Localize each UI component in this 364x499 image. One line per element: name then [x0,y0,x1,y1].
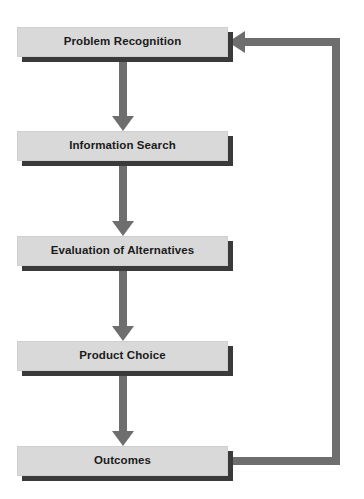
node-information-search[interactable]: Information Search [17,131,228,161]
feedback-outcomes-to-problem [228,31,340,465]
node-label: Product Choice [79,350,165,362]
node-evaluation-of-alternatives[interactable]: Evaluation of Alternatives [17,236,228,266]
node-product-choice[interactable]: Product Choice [17,341,228,371]
arrow-choice-to-outcomes [112,376,134,446]
node-label: Outcomes [94,455,151,467]
node-outcomes[interactable]: Outcomes [17,446,228,476]
arrow-evaluation-to-choice [112,271,134,341]
arrow-problem-to-search [112,62,134,131]
node-label: Evaluation of Alternatives [51,245,194,257]
arrow-search-to-evaluation [112,166,134,236]
flowchart-diagram: Problem Recognition Information Search E… [0,0,364,499]
node-label: Information Search [69,140,176,152]
node-label: Problem Recognition [64,36,182,48]
node-problem-recognition[interactable]: Problem Recognition [17,27,228,57]
